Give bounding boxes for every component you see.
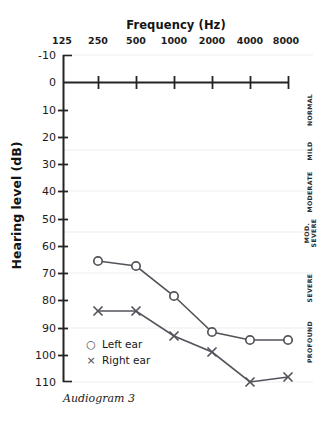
right-ear-point-2000 (208, 348, 216, 356)
left-ear-point-500 (132, 262, 140, 270)
legend: ○ Left ear × Right ear (84, 336, 150, 368)
circle-marker-icon: ○ (84, 339, 98, 350)
audiogram-plot (0, 0, 323, 424)
left-ear-point-1000 (170, 292, 178, 300)
legend-item-left-ear: ○ Left ear (84, 336, 150, 352)
severity-band-labels: NORMAL MILD MODERATE MOD. SEVERE SEVERE … (292, 0, 323, 424)
legend-label-left-ear: Left ear (102, 338, 142, 350)
gridlines (63, 55, 313, 382)
left-ear-point-2000 (208, 328, 216, 336)
cross-marker-icon: × (84, 355, 98, 366)
series-left-ear (94, 257, 292, 344)
left-ear-markers (94, 257, 292, 344)
left-ear-point-4000 (246, 336, 254, 344)
legend-item-right-ear: × Right ear (84, 352, 150, 368)
band-label-profound: PROFOUND (306, 302, 313, 382)
figure-caption: Audiogram 3 (63, 392, 135, 405)
left-ear-point-250 (94, 257, 102, 265)
left-ear-point-8000 (284, 336, 292, 344)
audiogram-figure: Frequency (Hz) 125 250 500 1000 2000 400… (0, 0, 323, 424)
legend-label-right-ear: Right ear (102, 354, 150, 366)
right-ear-point-1000 (170, 332, 178, 340)
